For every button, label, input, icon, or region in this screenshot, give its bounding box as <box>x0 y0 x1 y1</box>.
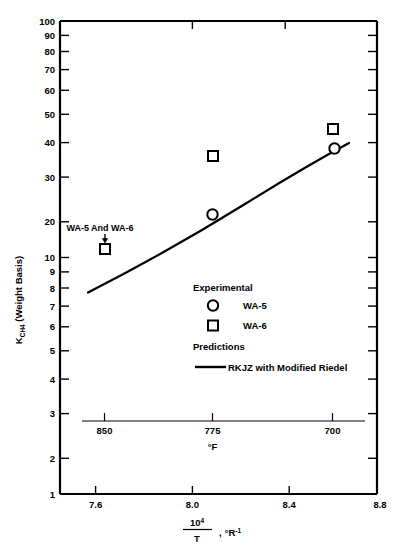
legend-marker-circle-wa5 <box>208 300 218 310</box>
y-tick-label: 50 <box>44 109 55 120</box>
y-tick-label: 9 <box>50 266 55 277</box>
prediction-curve-rkjz <box>88 143 349 293</box>
secondary-tick-label: 700 <box>325 425 341 436</box>
y-tick-label: 2 <box>50 453 55 464</box>
y-axis-tick-labels: 100 90 80 70 60 50 40 30 20 10 9 8 7 6 5… <box>39 16 56 500</box>
x-axis-ticks-top <box>192 21 285 29</box>
annotation-wa5-and-wa6: WA-5 And WA-6 <box>66 223 133 244</box>
y-tick-label: 40 <box>44 137 55 148</box>
plot-frame <box>60 21 377 494</box>
x-tick-label: 8.8 <box>373 499 386 510</box>
secondary-axis-fahrenheit: 850 775 700 °F <box>82 413 365 452</box>
y-tick-label: 20 <box>44 216 55 227</box>
y-tick-label: 90 <box>44 30 55 41</box>
y-tick-label: 100 <box>39 16 55 27</box>
y-axis-title: KCH4 (Weight Basis) <box>13 256 26 344</box>
x-axis-title-denominator: T <box>194 533 200 544</box>
secondary-axis-label: °F <box>208 441 218 452</box>
y-tick-label: 30 <box>44 172 55 183</box>
y-tick-label: 8 <box>50 283 55 294</box>
secondary-tick-label: 850 <box>97 425 113 436</box>
y-tick-label: 5 <box>50 345 56 356</box>
chart-legend: Experimental WA-5 WA-6 Predictions RKJZ … <box>193 282 347 373</box>
y-axis-title-subscript: CH4 <box>19 324 26 337</box>
y-tick-label: 4 <box>50 374 56 385</box>
y-tick-label: 60 <box>44 85 55 96</box>
data-markers-wa5 <box>207 143 339 219</box>
legend-marker-square-wa6 <box>208 321 218 331</box>
legend-heading-predictions: Predictions <box>193 341 245 352</box>
legend-heading-experimental: Experimental <box>193 282 253 293</box>
y-tick-label: 6 <box>50 321 55 332</box>
secondary-tick-label: 775 <box>205 425 222 436</box>
legend-label-wa5: WA-5 <box>243 300 267 311</box>
y-axis-title-rest: (Weight Basis) <box>13 256 24 324</box>
x-tick-label: 7.6 <box>89 499 102 510</box>
x-axis-title: 104 T ,°R-1 <box>183 517 241 545</box>
data-markers-wa6 <box>100 124 338 254</box>
y-tick-label: 1 <box>50 489 56 500</box>
y-axis-ticks-left <box>60 21 69 494</box>
x-axis-title-numerator: 104 <box>190 517 205 529</box>
legend-label-rkjz: RKJZ with Modified Riedel <box>228 362 347 373</box>
y-tick-label: 3 <box>50 408 55 419</box>
legend-label-wa6: WA-6 <box>243 320 267 331</box>
annotation-label: WA-5 And WA-6 <box>66 223 133 233</box>
y-tick-label: 80 <box>44 46 55 57</box>
y-tick-label: 10 <box>44 252 55 263</box>
y-axis-ticks-right <box>368 35 377 458</box>
chart-figure: 100 90 80 70 60 50 40 30 20 10 9 8 7 6 5… <box>0 0 399 548</box>
x-axis-title-units: ,°R-1 <box>219 527 241 539</box>
x-tick-label: 8.4 <box>283 499 297 510</box>
y-tick-label: 70 <box>44 64 55 75</box>
x-axis-ticks-bottom <box>96 486 290 494</box>
x-axis-tick-labels: 7.6 8.0 8.4 8.8 <box>89 499 387 510</box>
svg-text:KCH4 (Weight Basis): KCH4 (Weight Basis) <box>13 256 26 344</box>
x-tick-label: 8.0 <box>186 499 199 510</box>
chart-svg: 100 90 80 70 60 50 40 30 20 10 9 8 7 6 5… <box>0 0 399 548</box>
y-tick-label: 7 <box>50 301 55 312</box>
